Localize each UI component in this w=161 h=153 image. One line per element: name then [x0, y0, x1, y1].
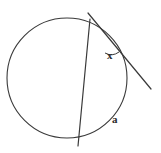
circle: [7, 18, 127, 138]
arc-label-a: a: [112, 114, 118, 125]
chord-secant-line: [78, 19, 90, 146]
tangent-line: [88, 13, 151, 89]
geometry-figure: x a: [0, 0, 161, 153]
angle-label-x: x: [107, 50, 113, 61]
geometry-canvas: [0, 0, 161, 153]
